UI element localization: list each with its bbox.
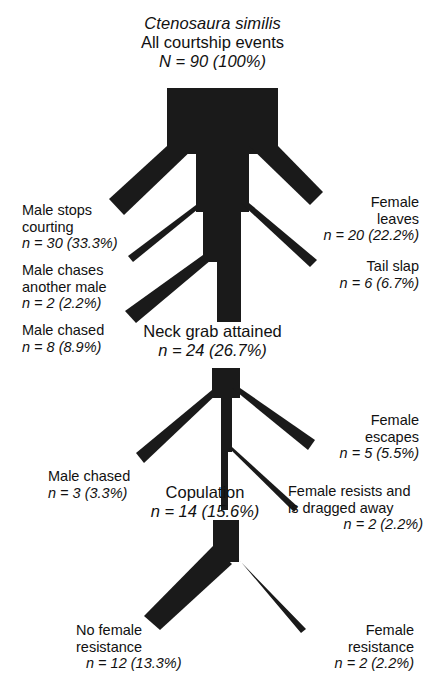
- branch-count: n = 2 (2.2%): [278, 655, 414, 672]
- branch-label-tail-slap: Tail slap n = 6 (6.7%): [283, 258, 419, 291]
- node-label-neck-grab: Neck grab attained n = 24 (26.7%): [110, 322, 315, 360]
- branch-count: n = 20 (22.2%): [283, 227, 419, 244]
- branch-count: n = 30 (33.3%): [22, 235, 162, 252]
- branch-label-male-stops-courting: Male stops courting n = 30 (33.3%): [22, 202, 162, 252]
- branch-count: n = 6 (6.7%): [283, 275, 419, 292]
- species-name: Ctenosaura similis: [0, 14, 425, 33]
- node-title: Copulation: [125, 483, 285, 502]
- branch-label-line2: resistance: [278, 639, 414, 656]
- branch-label-line2: escapes: [283, 429, 419, 446]
- branch-count: n = 2 (2.2%): [22, 295, 172, 312]
- figure-subtitle: All courtship events: [0, 33, 425, 52]
- node-count: n = 24 (26.7%): [110, 341, 315, 360]
- branch-label-female-escapes: Female escapes n = 5 (5.5%): [283, 412, 419, 462]
- branch-label-line1: Female: [278, 622, 414, 639]
- flow-trunk-after-escapes: [221, 390, 232, 452]
- branch-label-line1: Female: [283, 194, 419, 211]
- flow-trunk-all-events: [167, 88, 278, 154]
- branch-label-line1: Male stops: [22, 202, 162, 219]
- root-node-count: N = 90 (100%): [0, 52, 425, 71]
- branch-label-female-resistance: Female resistance n = 2 (2.2%): [278, 622, 414, 672]
- flow-branch-male-chased-lower: [136, 390, 221, 463]
- branch-count: n = 2 (2.2%): [288, 516, 423, 533]
- figure-title-block: Ctenosaura similis All courtship events …: [0, 14, 425, 70]
- root-node-count-text: N = 90 (100%): [159, 52, 266, 70]
- branch-label-female-leaves: Female leaves n = 20 (22.2%): [283, 194, 419, 244]
- branch-label-line1: No female: [76, 622, 226, 639]
- branch-label-no-female-resistance: No female resistance n = 12 (13.3%): [76, 622, 226, 672]
- flow-trunk-to-neck-grab: [217, 255, 241, 322]
- branch-label-line1: Female resists and: [288, 483, 423, 500]
- branch-label-line2: leaves: [283, 211, 419, 228]
- branch-label-line2: another male: [22, 279, 172, 296]
- flow-trunk-after-stops-leaves: [196, 146, 249, 212]
- branch-label-line2: resistance: [76, 639, 226, 656]
- node-count: n = 14 (15.6%): [125, 502, 285, 521]
- branch-count: n = 12 (13.3%): [76, 655, 226, 672]
- branch-label-line1: Male chases: [22, 262, 172, 279]
- branch-label-line2: courting: [22, 219, 162, 236]
- branch-label-female-resists-dragged: Female resists and is dragged away n = 2…: [288, 483, 423, 533]
- branch-label-line1: Tail slap: [283, 258, 419, 275]
- branch-count: n = 5 (5.5%): [283, 445, 419, 462]
- branch-label-male-chases-another-male: Male chases another male n = 2 (2.2%): [22, 262, 172, 312]
- branch-label-line2: is dragged away: [288, 500, 423, 517]
- node-label-copulation: Copulation n = 14 (15.6%): [125, 483, 285, 521]
- flow-branch-no-female-resistance: [144, 546, 232, 630]
- courtship-flow-diagram: Ctenosaura similis All courtship events …: [0, 0, 425, 678]
- flow-trunk-after-chase-tailslap: [203, 205, 241, 262]
- branch-label-line1: Female: [283, 412, 419, 429]
- node-title: Neck grab attained: [110, 322, 315, 341]
